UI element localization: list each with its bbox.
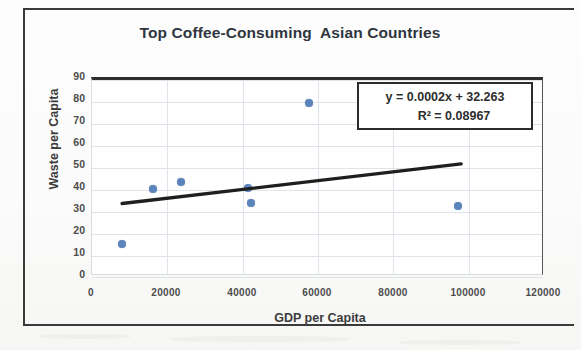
y-tick-label: 30	[57, 203, 85, 214]
scatter-chart: Top Coffee-Consuming Asian Countries	[0, 0, 581, 350]
trendline-equation-box: y = 0.0002x + 32.263 R² = 0.08967	[357, 82, 533, 130]
x-tick-label: 120000	[508, 287, 578, 298]
y-axis-ticks: 90 80 70 60 50 40 30 20 10 0 0 20000 400…	[0, 0, 581, 350]
y-tick-label: 90	[57, 71, 85, 82]
x-tick-label: 60000	[282, 287, 352, 298]
r-squared-text: R² = 0.08967	[359, 107, 531, 126]
x-tick-label: 100000	[433, 287, 503, 298]
y-tick-label: 10	[57, 247, 85, 258]
x-tick-label: 20000	[131, 287, 201, 298]
x-tick-label: 0	[56, 287, 126, 298]
x-axis-title: GDP per Capita	[150, 311, 490, 325]
x-tick-label: 40000	[207, 287, 277, 298]
x-tick-label: 80000	[358, 287, 428, 298]
y-tick-label: 0	[57, 269, 85, 280]
y-axis-title: Waste per Capita	[47, 64, 61, 214]
y-tick-label: 80	[57, 93, 85, 104]
trendline-equation-text: y = 0.0002x + 32.263	[359, 88, 531, 107]
y-tick-label: 60	[57, 137, 85, 148]
y-tick-label: 20	[57, 225, 85, 236]
y-tick-label: 50	[57, 159, 85, 170]
y-tick-label: 40	[57, 181, 85, 192]
y-tick-label: 70	[57, 115, 85, 126]
